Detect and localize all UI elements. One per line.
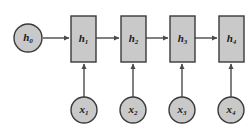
input-node-x2: x2 (120, 97, 146, 123)
input-edges-group (84, 64, 231, 97)
input-x3-subscript: 3 (182, 109, 187, 117)
hidden-state-h1-subscript: 1 (85, 38, 89, 46)
input-node-x1: x1 (71, 97, 97, 123)
input-x1-subscript: 1 (85, 109, 89, 117)
diagram-svg: h1h2h3h4 x1x2x3x4 h0 (0, 0, 250, 129)
input-nodes-group: x1x2x3x4 (71, 97, 244, 123)
input-x2-subscript: 2 (133, 109, 138, 117)
initial-state-node-h0: h0 (14, 24, 42, 52)
hidden-state-node-h2: h2 (121, 16, 146, 62)
hidden-state-node-h3: h3 (170, 16, 195, 62)
input-node-x3: x3 (169, 97, 195, 123)
hidden-state-h3-subscript: 3 (183, 38, 188, 46)
hidden-state-node-h1: h1 (71, 16, 96, 62)
input-x4-subscript: 4 (231, 109, 236, 117)
hidden-state-h2-subscript: 2 (134, 38, 139, 46)
hidden-state-h4-subscript: 4 (232, 38, 237, 46)
rnn-unrolled-diagram: h1h2h3h4 x1x2x3x4 h0 (0, 0, 250, 129)
hidden-state-nodes-group: h1h2h3h4 (71, 16, 244, 62)
input-node-x4: x4 (218, 97, 244, 123)
initial-state-node-group: h0 (14, 24, 42, 52)
hidden-state-node-h4: h4 (219, 16, 244, 62)
initial-state-h0-subscript: 0 (29, 37, 33, 45)
